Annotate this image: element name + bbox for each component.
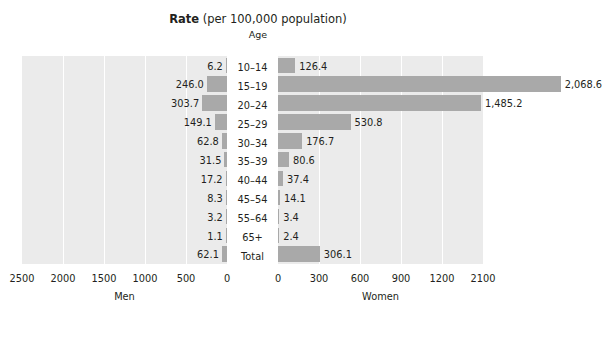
chart-row: 62.1 [22,245,227,264]
age-row: 45–54 [228,188,277,207]
chart-row: 149.1 [22,113,227,132]
bar-value-label: 1.1 [207,230,223,244]
bar-value-label: 37.4 [287,173,309,187]
bar-men: 8.3 [226,190,227,206]
bar-value-label: 8.3 [207,192,223,206]
age-row: 65+ [228,226,277,245]
age-row: 30–34 [228,132,277,151]
x-axis-label-women: Women [278,290,483,304]
bar-value-label: 14.1 [284,192,306,206]
axis-tick-label: 0 [275,272,281,286]
bar-men: 3.2 [226,209,227,225]
chart-row: 37.4 [278,169,483,188]
bar-value-label: 303.7 [171,97,199,111]
bar-value-label: 126.4 [299,60,327,74]
bar-value-label: 530.8 [355,116,383,130]
bar-men: 303.7 [202,95,227,111]
bar-value-label: 2.4 [283,230,299,244]
bar-men: 31.5 [224,152,227,168]
chart-row: 31.5 [22,150,227,169]
bar-women: 80.6 [278,152,289,168]
chart-row: 17.2 [22,169,227,188]
x-axis-women: 030060090012002100 [278,272,483,288]
axis-tick-label: 1200 [430,272,455,286]
age-label: 10–14 [238,62,268,73]
age-row: 10–14 [228,56,277,75]
age-label: 65+ [242,232,263,243]
bar-women: 126.4 [278,58,295,74]
age-label: 45–54 [238,194,268,205]
bar-value-label: 1,485.2 [485,97,522,111]
chart-row: 246.0 [22,75,227,94]
chart-row: 62.8 [22,132,227,151]
age-label: 25–29 [238,119,268,130]
bar-men: 149.1 [215,114,227,130]
chart-row: 530.8 [278,113,483,132]
age-row: 40–44 [228,169,277,188]
chart-row: 3.2 [22,207,227,226]
panel-women: 126.42,068.61,485.2530.8176.780.637.414.… [278,56,483,264]
age-label: 30–34 [238,138,268,149]
bar-value-label: 80.6 [293,154,315,168]
age-row: 35–39 [228,150,277,169]
bar-value-label: 306.1 [324,248,352,262]
axis-tick-label: 2000 [51,272,76,286]
axis-tick-label: 2100 [471,272,496,286]
chart-row: 303.7 [22,94,227,113]
axis-tick-label: 2500 [10,272,35,286]
bar-value-label: 17.2 [201,173,223,187]
age-label: 55–64 [238,213,268,224]
chart-row: 306.1 [278,245,483,264]
age-label: 20–24 [238,100,268,111]
bar-women: 2,068.6 [278,76,561,92]
bar-women: 2.4 [278,228,279,244]
age-row: Total [228,245,277,264]
panel-men: 6.2246.0303.7149.162.831.517.28.33.21.16… [22,56,227,264]
age-label: Total [241,251,264,262]
bar-value-label: 62.8 [197,135,219,149]
chart-row: 14.1 [278,188,483,207]
age-axis-header: Age [0,28,516,41]
chart-row: 2.4 [278,226,483,245]
bar-value-label: 31.5 [200,154,222,168]
bar-value-label: 62.1 [197,248,219,262]
chart-row: 6.2 [22,56,227,75]
axis-tick-label: 0 [224,272,230,286]
chart-row: 126.4 [278,56,483,75]
x-axis-label-men: Men [22,290,227,304]
chart-row: 80.6 [278,150,483,169]
bars-women: 126.42,068.61,485.2530.8176.780.637.414.… [278,56,483,264]
bar-women: 37.4 [278,171,283,187]
axis-tick-label: 300 [310,272,329,286]
bar-women: 14.1 [278,190,280,206]
axis-tick-label: 500 [177,272,196,286]
bar-men: 62.1 [222,246,227,262]
chart-title-rest: (per 100,000 population) [199,12,347,26]
bar-women: 176.7 [278,133,302,149]
age-row: 15–19 [228,75,277,94]
chart-row: 176.7 [278,132,483,151]
chart-title-emphasis: Rate [169,12,199,26]
bar-men: 6.2 [226,58,227,74]
age-label: 15–19 [238,81,268,92]
age-label: 35–39 [238,156,268,167]
age-label: 40–44 [238,175,268,186]
bar-men: 62.8 [222,133,227,149]
bar-value-label: 2,068.6 [565,78,602,92]
chart-area: 6.2246.0303.7149.162.831.517.28.33.21.16… [0,56,516,284]
bars-men: 6.2246.0303.7149.162.831.517.28.33.21.16… [22,56,227,264]
bar-women: 530.8 [278,114,351,130]
age-row: 55–64 [228,207,277,226]
bar-men: 1.1 [226,228,227,244]
bar-value-label: 3.4 [283,211,299,225]
bar-value-label: 6.2 [207,60,223,74]
bar-value-label: 149.1 [184,116,212,130]
chart-row: 8.3 [22,188,227,207]
axis-tick-label: 900 [392,272,411,286]
chart-title-block: Rate (per 100,000 population) Age [0,12,516,41]
chart-row: 1,485.2 [278,94,483,113]
age-row: 20–24 [228,94,277,113]
chart-row: 1.1 [22,226,227,245]
bar-value-label: 246.0 [176,78,204,92]
chart-row: 3.4 [278,207,483,226]
